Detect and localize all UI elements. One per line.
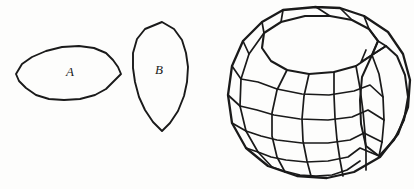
figure-canvas: A B (0, 0, 414, 189)
sphere-meridian (302, 74, 311, 176)
sphere-cap-strut (262, 22, 264, 33)
sphere-parallel (246, 131, 382, 143)
sphere-cap-strut (232, 66, 241, 79)
region-b-label: B (155, 62, 163, 77)
sphere-cap-strut-group (228, 7, 369, 152)
region-a-label: A (65, 64, 74, 79)
sphere-cap-strut (243, 41, 249, 54)
sphere-meridian (272, 70, 287, 172)
figure-drawing: A B (0, 0, 414, 189)
sphere-meridian (334, 72, 343, 176)
sphere-cap-rim (262, 16, 378, 74)
sphere-meridian-group (240, 33, 384, 176)
